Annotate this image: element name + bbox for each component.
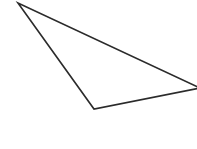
triangle-shape [18,3,197,109]
diagram-canvas [0,0,197,149]
